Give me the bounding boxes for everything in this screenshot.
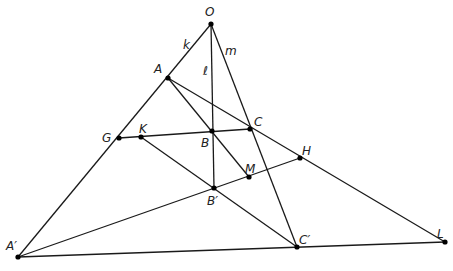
line-k-O-Aprime (18, 24, 211, 257)
point-c (247, 126, 252, 131)
labels-group: OABCGKMHB′A′C′Lkℓm (5, 5, 444, 253)
point-label-k: K (139, 122, 148, 136)
point-g (116, 135, 121, 140)
line-A-L (168, 78, 445, 242)
point-label-h: H (302, 144, 311, 158)
point-label-m: M (245, 162, 256, 176)
line-label-l: ℓ (202, 64, 208, 78)
geometry-diagram: OABCGKMHB′A′C′Lkℓm (0, 0, 453, 271)
point-b (209, 128, 214, 133)
line-K-Cprime (141, 137, 297, 247)
line-label-k: k (183, 38, 191, 52)
line-l-O-Bprime (211, 24, 214, 188)
point-ap (15, 254, 20, 259)
point-label-ap: A′ (5, 239, 17, 253)
line-m-O-Cprime (211, 24, 297, 247)
line-label-m: m (225, 44, 237, 58)
segments-group (18, 24, 445, 257)
point-label-l: L (437, 227, 444, 241)
point-bp (211, 185, 216, 190)
point-label-a: A (153, 62, 162, 76)
point-label-o: O (205, 5, 214, 19)
line-Aprime-L (18, 242, 445, 257)
point-label-b: B (201, 136, 209, 150)
point-label-bp: B′ (207, 194, 218, 208)
point-o (208, 21, 213, 26)
line-A-M (168, 78, 249, 177)
line-Aprime-H (18, 158, 300, 257)
point-a (165, 75, 170, 80)
point-label-g: G (102, 131, 111, 145)
point-label-cp: C′ (299, 233, 310, 247)
point-label-c: C (254, 115, 263, 129)
